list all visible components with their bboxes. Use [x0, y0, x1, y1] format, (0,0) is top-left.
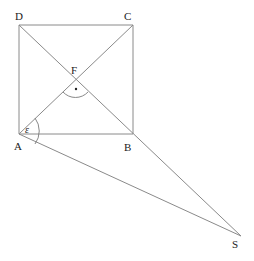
point-label-s: S: [232, 238, 238, 250]
angle-epsilon-arc: [35, 118, 39, 144]
right-angle-arc: [63, 92, 88, 97]
point-label-d: D: [15, 10, 23, 22]
angle-epsilon-label: ε: [25, 124, 29, 135]
point-label-b: B: [124, 141, 131, 153]
point-label-a: A: [14, 140, 22, 152]
point-label-c: C: [124, 10, 131, 22]
line-ds: [19, 25, 241, 236]
right-angle-dot-icon: [75, 88, 77, 90]
geometry-diagram: ε D C F A B S: [0, 0, 254, 261]
point-label-f: F: [71, 64, 77, 76]
